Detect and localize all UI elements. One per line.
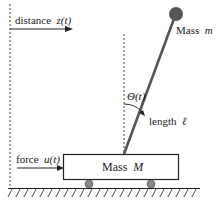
cart-wheel-left — [85, 180, 93, 188]
distance-variable: z(t) — [57, 14, 72, 26]
theta-label: Θ(t) — [127, 90, 145, 102]
length-label: length ℓ — [149, 115, 187, 127]
distance-text: distance — [15, 14, 51, 26]
force-label: force u(t) — [16, 153, 60, 165]
mass-m-text: Mass — [176, 24, 199, 36]
pendulum-mass-label: Mass m — [176, 24, 213, 36]
ground-hatching — [8, 189, 196, 197]
distance-label: distance z(t) — [15, 14, 71, 26]
length-variable: ℓ — [182, 115, 187, 127]
cart-wheel-right — [147, 180, 155, 188]
force-text: force — [16, 153, 39, 165]
theta-variable: Θ(t) — [127, 90, 145, 102]
distance-arrowhead-icon — [65, 26, 73, 32]
mass-m-variable: m — [205, 24, 213, 36]
cart-mass-label: Mass M — [102, 161, 143, 173]
mass-M-text: Mass — [102, 160, 127, 174]
force-variable: u(t) — [44, 153, 60, 165]
pendulum-rod — [124, 16, 175, 154]
mass-M-variable: M — [133, 160, 143, 174]
pendulum-mass-ball — [169, 7, 183, 21]
length-text: length — [149, 115, 177, 127]
